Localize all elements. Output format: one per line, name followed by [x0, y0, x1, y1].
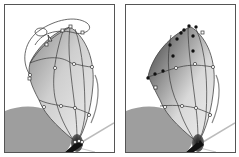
wing-mesh-illustration [5, 5, 114, 152]
panel-left-mesh-lasso [4, 4, 115, 153]
wing-mesh-illustration-selected [126, 5, 235, 152]
panel-right-mesh-selected [125, 4, 236, 153]
